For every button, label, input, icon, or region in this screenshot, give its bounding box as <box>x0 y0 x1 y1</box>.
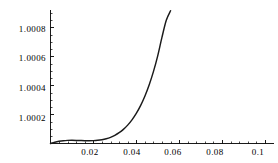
y-axis-major-ticks <box>51 28 55 115</box>
x-tick-label-0.04: 0.04 <box>112 148 152 157</box>
y-tick-label-1.0006: 1.0006 <box>8 54 46 63</box>
x-tick-label-0.08: 0.08 <box>195 148 235 157</box>
y-tick-label-1.0008: 1.0008 <box>8 25 46 34</box>
y-tick-label-1.0004: 1.0004 <box>8 84 46 93</box>
x-tick-label-0.06: 0.06 <box>153 148 193 157</box>
y-tick-label-1.0002: 1.0002 <box>8 114 46 123</box>
data-curve-line <box>51 11 171 144</box>
x-tick-label-0.02: 0.02 <box>70 148 110 157</box>
plot-figure: 1.0008 1.0006 1.0004 1.0002 0.02 0.04 0.… <box>0 0 278 163</box>
axes-group <box>50 10 274 144</box>
x-tick-label-0.1: 0.1 <box>238 148 278 157</box>
